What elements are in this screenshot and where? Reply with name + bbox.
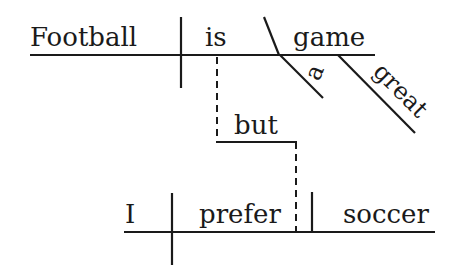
diagram-canvas: Football is game a great but I prefer so…: [0, 0, 461, 278]
conjunction-word-but: but: [234, 110, 278, 140]
object-word-soccer: soccer: [343, 199, 430, 229]
sentence-diagram: Football is game a great but I prefer so…: [0, 0, 461, 278]
verb-word-prefer: prefer: [199, 199, 281, 229]
clause-2: I prefer soccer: [124, 192, 435, 265]
subject-word-football: Football: [30, 22, 137, 52]
modifier-word-great: great: [368, 57, 434, 123]
complement-slash: [264, 17, 279, 55]
modifier-word-a: a: [299, 60, 330, 84]
clause-1: Football is game a great: [30, 17, 434, 133]
complement-word-game: game: [293, 22, 365, 52]
subject-word-i: I: [125, 199, 135, 229]
verb-word-is: is: [205, 22, 227, 52]
